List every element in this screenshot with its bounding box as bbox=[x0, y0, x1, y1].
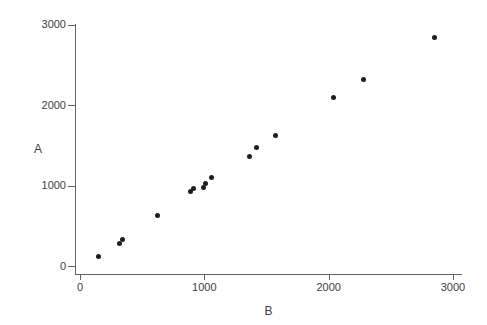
y-axis-line bbox=[75, 24, 76, 274]
x-tick-label: 2000 bbox=[304, 281, 354, 294]
data-point bbox=[361, 77, 366, 82]
data-point bbox=[191, 186, 196, 191]
data-point bbox=[209, 175, 214, 180]
x-tick bbox=[204, 275, 205, 280]
data-point bbox=[203, 181, 208, 186]
x-tick-label: 3000 bbox=[428, 281, 478, 294]
y-tick-label: 0 bbox=[19, 260, 66, 273]
data-point bbox=[247, 154, 252, 159]
y-tick-label: 3000 bbox=[19, 18, 66, 31]
y-tick bbox=[68, 25, 75, 26]
y-tick bbox=[68, 105, 75, 106]
data-point bbox=[432, 35, 437, 40]
x-axis-line bbox=[75, 274, 462, 275]
data-point bbox=[254, 145, 259, 150]
data-point bbox=[273, 133, 278, 138]
x-tick bbox=[80, 275, 81, 280]
data-point bbox=[120, 237, 125, 242]
scatter-plot: A B 01000200030000100020003000 bbox=[0, 0, 487, 325]
data-point bbox=[117, 241, 122, 246]
x-tick-label: 1000 bbox=[179, 281, 229, 294]
y-tick bbox=[68, 266, 75, 267]
data-point bbox=[331, 95, 336, 100]
data-point bbox=[96, 254, 101, 259]
x-tick bbox=[453, 275, 454, 280]
y-axis-title: A bbox=[28, 142, 48, 156]
x-axis-title: B bbox=[259, 304, 279, 318]
y-tick-label: 2000 bbox=[19, 99, 66, 112]
x-tick-label: 0 bbox=[55, 281, 105, 294]
y-tick-label: 1000 bbox=[19, 179, 66, 192]
x-tick bbox=[329, 275, 330, 280]
data-point bbox=[155, 213, 160, 218]
y-tick bbox=[68, 186, 75, 187]
